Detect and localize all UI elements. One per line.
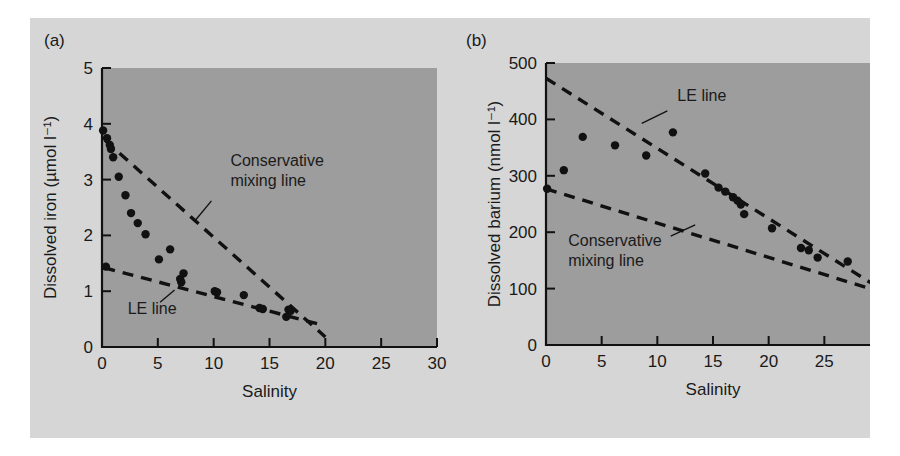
x-tick-label: 30: [428, 354, 447, 373]
y-tick-label: 100: [509, 280, 537, 299]
y-tick-label: 2: [84, 226, 93, 245]
x-tick-label: 25: [815, 352, 834, 371]
y-tick-label: 0: [84, 338, 93, 357]
y-tick-label: 5: [84, 59, 93, 78]
data-point: [701, 169, 709, 177]
y-tick-label: 3: [84, 171, 93, 190]
annotation-le-line: LE line: [128, 300, 177, 317]
y-tick-label: 500: [509, 54, 537, 73]
x-tick-label: 20: [759, 352, 778, 371]
x-tick-label: 15: [260, 354, 279, 373]
annotation-line: Conservative: [568, 232, 661, 249]
y-axis-title: Dissolved iron (µmol l⁻¹): [41, 116, 60, 299]
data-point: [560, 166, 568, 174]
x-tick-label: 25: [372, 354, 391, 373]
data-point: [107, 145, 115, 153]
data-point: [141, 230, 149, 238]
data-point: [115, 173, 123, 181]
y-tick-label: 400: [509, 110, 537, 129]
data-point: [259, 305, 267, 313]
x-tick-label: 10: [648, 352, 667, 371]
data-point: [127, 209, 135, 217]
x-tick-label: 15: [704, 352, 723, 371]
annotation-line: mixing line: [568, 252, 644, 269]
data-point: [102, 262, 110, 270]
data-point: [134, 219, 142, 227]
data-point: [121, 191, 129, 199]
data-point: [543, 185, 551, 193]
x-tick-label: 5: [597, 352, 606, 371]
annotation-line: Conservative: [230, 152, 323, 169]
data-point: [844, 257, 852, 265]
chart-panel-b: (b)0510152025300100200300400500SalinityD…: [460, 18, 870, 438]
data-point: [579, 133, 587, 141]
y-tick-label: 1: [84, 282, 93, 301]
data-point: [99, 126, 107, 134]
annotation-line: LE line: [677, 87, 726, 104]
scatter-plot-a: (a)051015202530012345SalinityDissolved i…: [30, 18, 460, 438]
plot-area-background: [546, 63, 870, 345]
data-point: [213, 288, 221, 296]
data-point: [177, 278, 185, 286]
x-tick-label: 0: [97, 354, 106, 373]
data-point: [669, 128, 677, 136]
figure-canvas: (a)051015202530012345SalinityDissolved i…: [30, 18, 870, 438]
y-tick-label: 4: [84, 115, 93, 134]
x-axis-title: Salinity: [686, 380, 741, 399]
data-point: [813, 253, 821, 261]
x-tick-label: 20: [316, 354, 335, 373]
annotation-line: LE line: [128, 300, 177, 317]
data-point: [240, 291, 248, 299]
panel-label-b: (b): [466, 31, 487, 50]
y-tick-label: 0: [528, 336, 537, 355]
data-point: [721, 187, 729, 195]
x-axis-title: Salinity: [242, 382, 297, 401]
data-point: [805, 246, 813, 254]
chart-panel-a: (a)051015202530012345SalinityDissolved i…: [30, 18, 460, 438]
annotation-line: mixing line: [230, 172, 306, 189]
data-point: [740, 210, 748, 218]
x-tick-label: 10: [204, 354, 223, 373]
data-point: [611, 141, 619, 149]
data-point: [155, 255, 163, 263]
data-point: [768, 224, 776, 232]
x-tick-label: 5: [153, 354, 162, 373]
y-axis-title: Dissolved barium (nmol l⁻¹): [485, 101, 504, 307]
data-point: [166, 245, 174, 253]
data-point: [737, 200, 745, 208]
data-point: [282, 313, 290, 321]
annotation-le-line: LE line: [677, 87, 726, 104]
scatter-plot-b: (b)0510152025300100200300400500SalinityD…: [460, 18, 870, 438]
y-tick-label: 200: [509, 223, 537, 242]
data-point: [797, 244, 805, 252]
panel-label-a: (a): [44, 31, 65, 50]
data-point: [642, 151, 650, 159]
y-tick-label: 300: [509, 167, 537, 186]
x-tick-label: 0: [541, 352, 550, 371]
data-point: [109, 153, 117, 161]
